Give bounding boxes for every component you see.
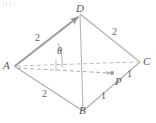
edge-length-bp: 1 [101,91,106,101]
geometry-canvas [0,0,156,123]
geometry-figure: A B C D P 2 2 2 1 1 θ [0,0,156,123]
edge-d-c [80,14,140,62]
vector-a-c [17,62,137,66]
vertex-label-D: D [76,3,84,14]
vertex-label-B: B [79,105,86,116]
point-p-marker [110,71,114,75]
vertex-label-A: A [3,60,10,71]
vector-a-d [15,17,78,66]
vertex-label-P: P [115,76,122,87]
edge-length-dc: 2 [112,27,117,37]
edge-length-pc: 1 [127,69,132,79]
edge-a-b [14,66,83,111]
edge-d-b [80,15,83,110]
edge-length-ab: 2 [42,89,47,99]
vertex-label-C: C [143,56,150,67]
angle-label-theta: θ [57,46,62,56]
vector-a-p [17,68,110,73]
edge-length-ad: 2 [35,33,40,43]
